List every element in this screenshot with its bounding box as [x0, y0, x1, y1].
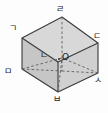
cube-figure: ㄱ ㄴ ㄷ ㄹ ㅁ ㅂ ㅅ O — [0, 0, 108, 113]
vertex-label-digeut: ㄷ — [93, 32, 101, 41]
vertex-label-mieum: ㅁ — [4, 67, 12, 76]
vertex-label-bieup: ㅂ — [53, 95, 61, 104]
center-point-label: O — [62, 53, 69, 62]
vertex-label-rieul: ㄹ — [56, 5, 64, 14]
center-dot — [58, 58, 60, 60]
vertex-label-nieun: ㄴ — [40, 51, 48, 60]
vertex-label-giyeok: ㄱ — [9, 24, 17, 33]
vertex-label-siot: ㅅ — [94, 76, 102, 85]
